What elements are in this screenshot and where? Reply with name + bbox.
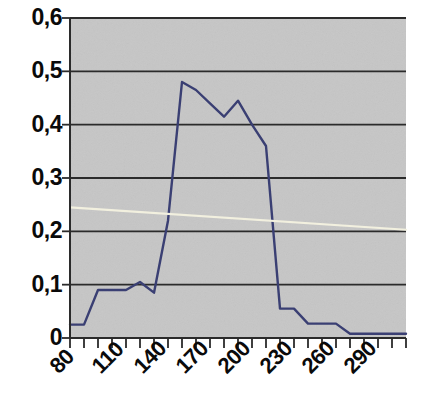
x-tick-label: 170 <box>172 337 212 377</box>
chart-figure: 00,10,20,30,40,50,6 80110140170200230260… <box>0 0 424 413</box>
x-tick-label: 140 <box>130 337 170 377</box>
x-axis-labels: 80110140170200230260290 <box>0 0 424 413</box>
x-tick-label: 230 <box>256 337 296 377</box>
x-tick-label: 200 <box>214 337 254 377</box>
x-tick-label: 260 <box>298 337 338 377</box>
x-tick-label: 110 <box>88 338 128 378</box>
x-tick-label: 80 <box>46 345 78 377</box>
x-tick-label: 290 <box>340 337 380 377</box>
